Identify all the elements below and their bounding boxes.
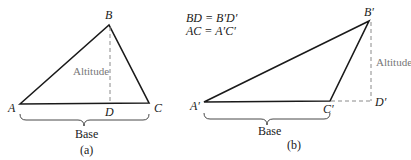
label-d: D xyxy=(104,105,114,119)
label-b: B xyxy=(105,8,113,22)
figure-b: BD = B′D′ AC = A′C′ B′ A′ C′ D′ Altitude… xyxy=(185,5,411,152)
base-label-b: Base xyxy=(258,124,281,138)
altitude-label-b: Altitude xyxy=(376,56,411,68)
label-c-prime: C′ xyxy=(323,102,334,116)
label-b-prime: B′ xyxy=(364,5,374,19)
altitude-label-a: Altitude xyxy=(73,65,109,77)
triangle-diagram: B A C D Altitude Base (a) BD = B′D′ AC =… xyxy=(0,0,411,160)
label-c: C xyxy=(154,101,163,115)
label-a-prime: A′ xyxy=(189,99,200,113)
base-label-a: Base xyxy=(75,127,98,141)
equation-bd: BD = B′D′ xyxy=(186,11,238,25)
base-brace-a xyxy=(20,114,149,126)
figure-a: B A C D Altitude Base (a) xyxy=(7,8,163,157)
caption-a: (a) xyxy=(80,143,93,157)
equation-ac: AC = A′C′ xyxy=(185,24,236,38)
label-a: A xyxy=(7,101,16,115)
label-d-prime: D′ xyxy=(374,95,387,109)
caption-b: (b) xyxy=(287,138,301,152)
